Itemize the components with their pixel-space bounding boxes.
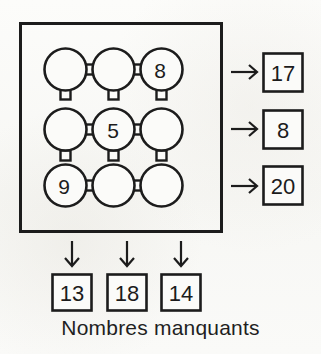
connector-v-c2-r1 bbox=[157, 151, 167, 161]
arrow-right-icon-row-1 bbox=[231, 122, 257, 136]
arrow-down-icon-col-0 bbox=[65, 241, 79, 266]
bead-value-r2-c0: 9 bbox=[58, 175, 70, 198]
column-total-value-0: 13 bbox=[60, 281, 84, 306]
column-total-value-2: 14 bbox=[169, 281, 193, 306]
puzzle-diagram: 8 5 9 17 bbox=[0, 0, 321, 354]
column-total-value-1: 18 bbox=[115, 281, 139, 306]
bead-value-r0-c2: 8 bbox=[154, 59, 166, 82]
row-total-value-1: 8 bbox=[277, 118, 289, 143]
bead-r1-c2[interactable] bbox=[141, 109, 183, 151]
worksheet-caption: Nombres manquants bbox=[0, 316, 321, 340]
arrow-right-icon-row-2 bbox=[231, 179, 257, 193]
row-total-value-0: 17 bbox=[271, 61, 295, 86]
bead-r0-c0[interactable] bbox=[45, 49, 87, 91]
connector-v-c0-r1 bbox=[61, 151, 71, 161]
row-total-group: 17 8 20 bbox=[264, 54, 303, 205]
bead-r0-c1[interactable] bbox=[93, 49, 135, 91]
column-arrow-group bbox=[65, 241, 188, 266]
arrow-right-icon-row-0 bbox=[231, 65, 257, 79]
column-total-group: 13 18 14 bbox=[53, 275, 201, 311]
arrow-down-icon-col-1 bbox=[120, 241, 134, 266]
bead-r2-c2[interactable] bbox=[141, 165, 183, 207]
worksheet-page: 8 5 9 17 bbox=[0, 0, 321, 354]
connector-v-c1-r1 bbox=[109, 151, 119, 161]
row-arrow-group bbox=[231, 65, 257, 193]
arrow-down-icon-col-2 bbox=[174, 241, 188, 266]
row-total-value-2: 20 bbox=[271, 174, 295, 199]
bead-value-r1-c1: 5 bbox=[107, 119, 119, 142]
bead-r1-c0[interactable] bbox=[45, 109, 87, 151]
bead-r2-c1[interactable] bbox=[93, 165, 135, 207]
